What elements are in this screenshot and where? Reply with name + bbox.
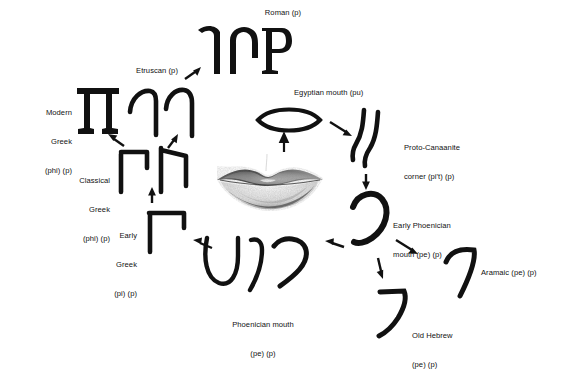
- label-roman: Roman (p): [233, 8, 333, 18]
- label-early-greek-line1: Early: [80, 231, 137, 241]
- label-etruscan: Etruscan (p): [117, 66, 197, 76]
- glyph-etruscan: [127, 86, 197, 138]
- label-phoenician-mouth-line1: Phoenician mouth: [203, 320, 323, 330]
- label-old-hebrew-line1: Old Hebrew: [412, 331, 502, 341]
- label-modern-greek-line1: Modern: [12, 108, 72, 118]
- label-egyptian-mouth: Egyptian mouth (pu): [294, 88, 404, 98]
- glyph-proto-canaanite: [352, 108, 392, 170]
- label-early-greek-line2: Greek: [80, 260, 137, 270]
- label-proto-canaanite-line1: Proto-Canaanite: [404, 143, 500, 153]
- label-proto-canaanite-line2: corner (pi't) (p): [404, 172, 500, 182]
- glyph-modern-greek: [76, 86, 120, 136]
- label-early-phoenician-line1: Early Phoenician: [393, 221, 485, 231]
- label-early-phoenician-line2: mouth (pe) (p): [393, 250, 485, 260]
- glyph-phoenician-mouth: [198, 236, 316, 296]
- glyph-egyptian-mouth: [255, 102, 323, 138]
- label-aramaic: Aramaic (pe) (p): [481, 268, 571, 278]
- glyph-roman: [196, 24, 292, 76]
- label-modern-greek-line2: Greek: [12, 137, 72, 147]
- label-phoenician-mouth-line2: (pe) (p): [203, 349, 323, 359]
- arrow-egyptian-to-proto-canaanite: [330, 122, 352, 136]
- glyph-classical-greek: [117, 146, 191, 194]
- arrow-early-phoenician-to-old-hebrew: [377, 258, 384, 279]
- glyph-old-hebrew: [378, 288, 412, 340]
- label-old-hebrew-line2: (pe) (p): [412, 360, 502, 370]
- glyph-early-phoenician: [350, 190, 390, 246]
- label-early-greek-line3: (pi) (p): [80, 289, 137, 299]
- glyph-early-greek: [146, 208, 192, 254]
- arrow-proto-canaanite-to-early-phoenician: [362, 174, 370, 190]
- label-classical-greek-line1: Classical: [48, 176, 110, 186]
- arrow-early-phoenician-to-phoenician-mouth: [325, 238, 344, 247]
